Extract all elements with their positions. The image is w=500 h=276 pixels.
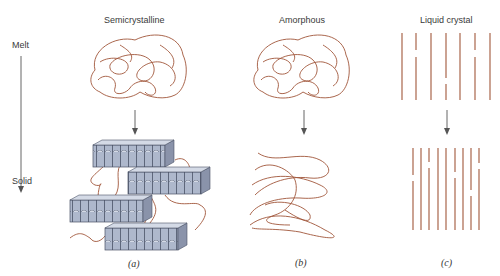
crystal-lamella-2 [128, 167, 210, 194]
panel-b-arrow [301, 110, 307, 135]
melt-to-solid-arrow [18, 56, 24, 193]
panel-c-arrow [444, 110, 450, 135]
panel-a-arrow [132, 110, 138, 135]
liquid-crystal-melt-rods [402, 33, 490, 100]
crystal-lamella-1 [93, 140, 174, 167]
crystal-lamella-3 [70, 195, 152, 222]
liquid-crystal-solid-rods [413, 148, 479, 230]
semicrystalline-melt-coil [91, 35, 186, 98]
amorphous-solid-chains [250, 153, 334, 238]
diagram-canvas [0, 0, 500, 276]
amorphous-melt-coil [254, 35, 349, 98]
crystal-lamella-4 [105, 223, 187, 250]
